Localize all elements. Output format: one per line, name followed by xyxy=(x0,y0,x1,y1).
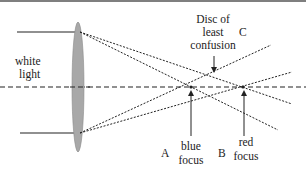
disc-label-3: confusion xyxy=(190,39,236,51)
red-ray-top xyxy=(80,32,292,104)
red-focus-point xyxy=(241,85,244,88)
point-c-label: C xyxy=(239,26,247,38)
red-ray-bottom xyxy=(80,72,292,133)
red-focus-label-1: red xyxy=(239,136,254,148)
disc-label-2: least xyxy=(202,26,224,38)
blue-focus-label-2: focus xyxy=(179,154,204,166)
point-b-label: B xyxy=(218,147,226,159)
blue-focus-label-1: blue xyxy=(181,140,201,152)
chromatic-aberration-diagram: white light Disc of least confusion C A … xyxy=(0,0,306,177)
point-a-label: A xyxy=(161,147,170,159)
white-light-label-2: light xyxy=(19,68,41,81)
disc-label-1: Disc of xyxy=(196,13,230,25)
red-focus-label-2: focus xyxy=(234,150,259,162)
blue-ray-bottom xyxy=(80,45,271,133)
white-light-label-1: white xyxy=(15,55,41,67)
blue-focus-point xyxy=(189,85,192,88)
blue-ray-top xyxy=(80,32,278,130)
